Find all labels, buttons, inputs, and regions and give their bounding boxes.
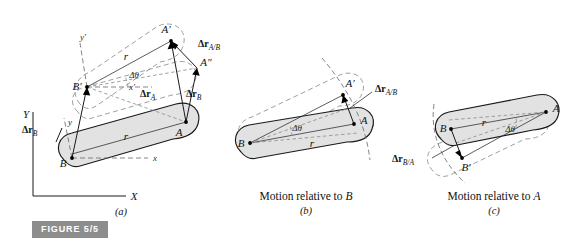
panel-a-dr-B-axis-symbol: Δr <box>22 124 33 135</box>
panel-c-label-B: B <box>440 122 447 134</box>
panel-a-label-delta-theta: Δθ <box>128 70 139 80</box>
panel-a-label-dr-AB: ΔrA/B <box>198 38 220 52</box>
panel-b-caption-prefix: Motion relative to <box>260 190 346 202</box>
figure-page: A B A′ A″ B′ X Y x y x′ y′ r r Δθ ΔrA Δr… <box>0 0 586 247</box>
panel-c-label-A: A <box>552 102 560 114</box>
panel-b-label-r: r <box>310 137 315 149</box>
panel-a-label-r-lower: r <box>124 130 129 142</box>
panel-c: A B B′ r Δθ ΔrB/A Motion relative to A (… <box>392 95 560 217</box>
panel-a-label-dr-A: ΔrA <box>140 88 156 102</box>
panel-b-caption: Motion relative to B <box>260 190 353 202</box>
panel-a-label-A-double-prime: A″ <box>199 56 212 68</box>
panel-b-point-A <box>352 122 356 126</box>
panel-b-label-delta-theta: Δθ <box>291 123 302 133</box>
panel-a-label-dr-B-axis: ΔrB <box>22 124 38 138</box>
panel-a-label-dr-B: ΔrB <box>186 88 202 102</box>
panel-c-label-dr-BA: ΔrB/A <box>392 153 414 167</box>
panel-a-letter: (a) <box>115 206 128 218</box>
figure-number-badge: FIGURE 5/5 <box>32 221 108 238</box>
panel-b-point-A-prime <box>341 93 345 97</box>
panel-b-caption-point: B <box>345 190 352 202</box>
panel-b-letter: (b) <box>300 205 313 217</box>
panel-a-dr-AB-subscript: A/B <box>208 43 221 52</box>
panel-a-r-upper-line <box>87 41 171 87</box>
panel-c-point-A <box>544 110 548 114</box>
panel-c-letter: (c) <box>488 205 500 217</box>
panel-b-label-B: B <box>238 137 245 149</box>
panel-c-caption: Motion relative to A <box>448 190 542 202</box>
panel-a-label-A: A <box>175 126 183 138</box>
panel-b-label-A: A <box>360 114 368 126</box>
figure-canvas: A B A′ A″ B′ X Y x y x′ y′ r r Δθ ΔrA Δr… <box>0 0 586 247</box>
panel-a-dr-B-axis-subscript: B <box>33 129 38 138</box>
panel-b-label-A-prime: A′ <box>344 77 355 89</box>
panel-a-dr-B-subscript: B <box>197 93 202 102</box>
panel-c-dr-BA-symbol: Δr <box>392 153 403 164</box>
panel-c-label-r: r <box>482 116 487 128</box>
panel-a-label-B: B <box>60 157 67 169</box>
panel-a-label-X-axis: X <box>130 190 139 202</box>
panel-b: A B A′ r Δθ ΔrA/B Motion relative to B (… <box>235 58 397 217</box>
panel-a: A B A′ A″ B′ X Y x y x′ y′ r r Δθ ΔrA Δr… <box>22 23 220 218</box>
panel-c-label-B-prime: B′ <box>461 161 471 173</box>
panel-a-dr-A-subscript: A <box>150 93 156 102</box>
panel-a-point-A <box>184 120 188 124</box>
panel-a-point-A-prime <box>169 39 173 43</box>
panel-a-label-y-axis: y <box>67 117 72 127</box>
panel-b-point-B <box>248 141 252 145</box>
panel-a-label-A-prime: A′ <box>160 23 171 35</box>
panel-a-dr-AB-symbol: Δr <box>198 38 209 49</box>
panel-c-point-B <box>449 127 453 131</box>
panel-c-label-delta-theta: Δθ <box>504 124 515 134</box>
panel-b-dr-AB-leader <box>350 92 372 108</box>
panel-a-label-x-axis: x <box>152 153 157 163</box>
panel-b-label-dr-AB: ΔrA/B <box>375 83 397 97</box>
panel-b-dr-AB-subscript: A/B <box>385 88 398 97</box>
panel-a-label-x-prime-axis: x′ <box>128 82 136 92</box>
panel-b-dr-AB-symbol: Δr <box>375 83 386 94</box>
panel-a-dr-B-symbol: Δr <box>186 88 197 99</box>
panel-a-connector-1 <box>87 68 197 87</box>
panel-a-point-B-prime <box>85 85 89 89</box>
panel-c-point-B-prime <box>460 156 464 160</box>
panel-a-label-y-prime-axis: y′ <box>79 32 87 42</box>
panel-a-label-B-prime: B′ <box>72 80 82 92</box>
panel-a-dr-B-copy-arrowhead <box>192 68 200 76</box>
panel-a-label-Y-axis: Y <box>23 108 31 120</box>
panel-c-caption-prefix: Motion relative to <box>448 190 534 202</box>
panel-c-caption-point: A <box>532 190 541 202</box>
panel-a-dr-A-symbol: Δr <box>140 88 151 99</box>
panel-a-label-r-upper: r <box>124 50 129 62</box>
panel-a-ghost-body <box>75 24 184 108</box>
panel-c-dr-BA-leader <box>432 145 455 158</box>
panel-a-point-B <box>70 156 74 160</box>
panel-c-dr-BA-subscript: B/A <box>403 158 415 167</box>
